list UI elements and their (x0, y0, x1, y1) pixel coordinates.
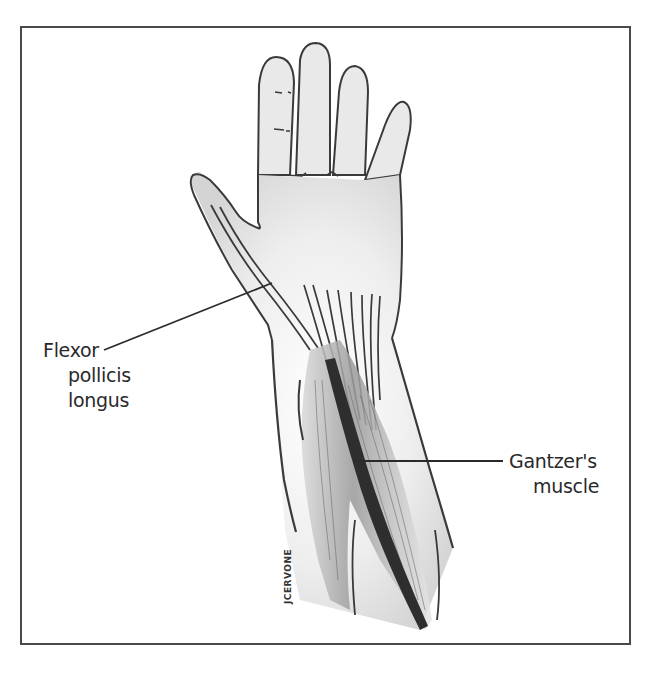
hand-forearm-illustration (0, 0, 646, 675)
flexor-label-line1: Flexor (43, 339, 99, 361)
index-finger (258, 57, 294, 175)
gantzer-label-line2: muscle (533, 475, 599, 497)
gantzer-label-line1: Gantzer's (509, 450, 597, 472)
flexor-label-line3: longus (68, 389, 129, 411)
flexor-leader-line (104, 283, 272, 350)
flexor-label-line2: pollicis (68, 364, 131, 386)
little-finger (365, 102, 411, 180)
artist-signature: JCERVONE (283, 549, 293, 604)
ring-finger (333, 66, 368, 175)
middle-finger (296, 43, 330, 175)
fingers (258, 43, 411, 180)
